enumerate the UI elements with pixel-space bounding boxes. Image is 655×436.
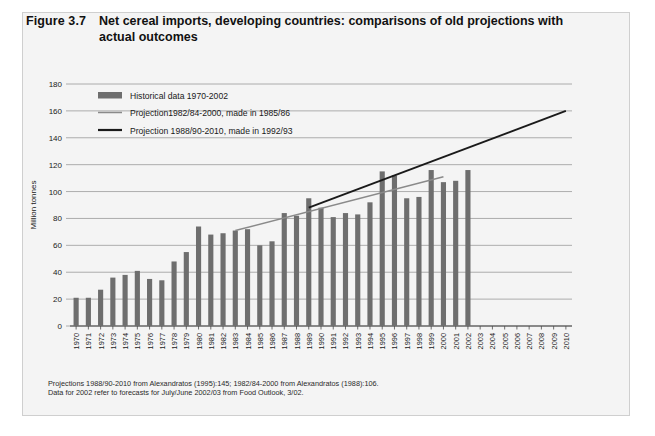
bar-1989 <box>306 198 311 326</box>
xtick-label-2008: 2008 <box>537 333 546 349</box>
xtick-label-1992: 1992 <box>341 333 350 349</box>
bar-1992 <box>343 213 348 326</box>
xtick-label-1994: 1994 <box>366 333 375 349</box>
xtick-label-2001: 2001 <box>452 333 461 349</box>
ytick-label-160: 160 <box>49 107 63 116</box>
bar-1986 <box>269 241 274 326</box>
xtick-label-1990: 1990 <box>317 333 326 349</box>
bar-1982 <box>220 233 225 326</box>
bar-1976 <box>147 279 152 326</box>
xtick-label-1988: 1988 <box>293 333 302 349</box>
xtick-label-1987: 1987 <box>280 333 289 349</box>
xtick-label-1986: 1986 <box>268 333 277 349</box>
bar-1980 <box>196 227 201 326</box>
bar-1997 <box>404 198 409 326</box>
xtick-label-1985: 1985 <box>256 333 265 349</box>
bar-1984 <box>245 229 250 326</box>
bar-1972 <box>98 290 103 326</box>
chart-plot-area: 020406080100120140160180Million tonnes19… <box>24 74 586 374</box>
xtick-label-2000: 2000 <box>439 333 448 349</box>
legend-label-0: Historical data 1970-2002 <box>130 91 228 101</box>
xtick-label-1993: 1993 <box>354 333 363 349</box>
bar-1999 <box>429 170 434 326</box>
legend-label-2: Projection 1988/90-2010, made in 1992/93 <box>130 126 293 136</box>
xtick-label-1976: 1976 <box>146 333 155 349</box>
bar-1983 <box>233 231 238 326</box>
legend-label-1: Projection1982/84-2000, made in 1985/86 <box>130 108 290 118</box>
xtick-label-1978: 1978 <box>170 333 179 349</box>
xtick-label-1995: 1995 <box>378 333 387 349</box>
ytick-label-60: 60 <box>53 241 62 250</box>
xtick-label-2003: 2003 <box>476 333 485 349</box>
bar-1990 <box>318 208 323 326</box>
bar-1991 <box>331 217 336 326</box>
xtick-label-1984: 1984 <box>244 333 253 349</box>
xtick-label-1980: 1980 <box>195 333 204 349</box>
bar-1996 <box>392 175 397 326</box>
ytick-label-180: 180 <box>49 80 63 89</box>
legend-swatch-0 <box>98 92 122 99</box>
xtick-label-1971: 1971 <box>84 333 93 349</box>
xtick-label-1998: 1998 <box>415 333 424 349</box>
ytick-label-140: 140 <box>49 134 63 143</box>
xtick-label-1972: 1972 <box>97 333 106 349</box>
xtick-label-1983: 1983 <box>231 333 240 349</box>
xtick-label-2006: 2006 <box>513 333 522 349</box>
bar-1981 <box>208 235 213 326</box>
ytick-label-80: 80 <box>53 214 62 223</box>
bar-2001 <box>453 181 458 326</box>
xtick-label-1975: 1975 <box>133 333 142 349</box>
xtick-label-1982: 1982 <box>219 333 228 349</box>
projection-line-2 <box>309 111 566 208</box>
bar-1977 <box>159 280 164 326</box>
figure-number: Figure 3.7 <box>26 14 86 28</box>
bar-1995 <box>380 171 385 326</box>
bar-2000 <box>441 182 446 326</box>
ytick-label-40: 40 <box>53 268 62 277</box>
xtick-label-1979: 1979 <box>182 333 191 349</box>
xtick-label-1999: 1999 <box>427 333 436 349</box>
bar-1985 <box>257 245 262 326</box>
bar-1978 <box>172 261 177 326</box>
xtick-label-1989: 1989 <box>305 333 314 349</box>
bar-1971 <box>86 298 91 326</box>
xtick-label-2002: 2002 <box>464 333 473 349</box>
bar-1973 <box>110 278 115 326</box>
bar-1994 <box>367 202 372 326</box>
xtick-label-2009: 2009 <box>550 333 559 349</box>
xtick-label-2005: 2005 <box>501 333 510 349</box>
figure-title-block: Figure 3.7 Net cereal imports, developin… <box>26 14 586 45</box>
xtick-label-1981: 1981 <box>207 333 216 349</box>
figure-title: Net cereal imports, developing countries… <box>99 14 567 45</box>
footnote-line-1: Projections 1988/90-2010 from Alexandrat… <box>48 379 588 388</box>
xtick-label-2004: 2004 <box>488 333 497 349</box>
bar-1988 <box>294 216 299 326</box>
ytick-label-120: 120 <box>49 161 63 170</box>
xtick-label-1977: 1977 <box>158 333 167 349</box>
xtick-label-1997: 1997 <box>403 333 412 349</box>
figure-container: Figure 3.7 Net cereal imports, developin… <box>0 0 655 436</box>
bar-1998 <box>416 197 421 326</box>
bar-1970 <box>74 298 79 326</box>
ytick-label-20: 20 <box>53 295 62 304</box>
xtick-label-1996: 1996 <box>390 333 399 349</box>
xtick-label-1974: 1974 <box>121 333 130 349</box>
bar-1979 <box>184 252 189 326</box>
footnote-line-2: Data for 2002 refer to forecasts for Jul… <box>48 388 588 397</box>
bar-1975 <box>135 271 140 326</box>
xtick-label-1991: 1991 <box>329 333 338 349</box>
y-axis-title: Million tonnes <box>29 181 38 230</box>
xtick-label-2010: 2010 <box>562 333 571 349</box>
bar-2002 <box>465 170 470 326</box>
bar-1974 <box>123 275 128 326</box>
bar-1993 <box>355 214 360 326</box>
ytick-label-0: 0 <box>58 322 63 331</box>
bar-1987 <box>282 213 287 326</box>
ytick-label-100: 100 <box>49 188 63 197</box>
figure-footnotes: Projections 1988/90-2010 from Alexandrat… <box>48 379 588 398</box>
xtick-label-2007: 2007 <box>525 333 534 349</box>
projection-line-1 <box>235 177 443 231</box>
cereal-imports-chart: 020406080100120140160180Million tonnes19… <box>24 74 586 374</box>
xtick-label-1970: 1970 <box>72 333 81 349</box>
xtick-label-1973: 1973 <box>109 333 118 349</box>
